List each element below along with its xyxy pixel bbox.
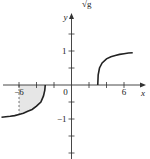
y-tick-label: −1 <box>57 114 67 124</box>
x-tick-label: 6 <box>122 87 127 97</box>
y-axis-label: y <box>63 12 68 22</box>
x-tick-label: −6 <box>14 87 24 97</box>
chart-plot: √g −6061−1xy <box>0 0 150 159</box>
x-axis-arrow <box>140 83 146 88</box>
curve-right-branch <box>98 53 133 85</box>
y-tick-label: 1 <box>62 46 67 56</box>
x-axis-label: x <box>140 88 145 98</box>
clipped-title-label: √g <box>82 0 92 9</box>
y-axis-arrow <box>69 13 74 19</box>
x-tick-label: 0 <box>63 87 68 97</box>
